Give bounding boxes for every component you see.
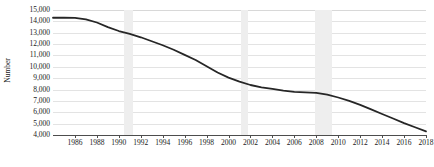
x-tick xyxy=(229,135,230,138)
y-tick-label: 13,000 xyxy=(29,29,50,37)
x-tick xyxy=(119,135,120,138)
x-tick xyxy=(250,135,251,138)
y-tick-label: 4,000 xyxy=(33,131,50,139)
x-tick-label: 1988 xyxy=(89,139,104,147)
y-tick-label: 9,000 xyxy=(33,74,50,82)
y-tick-label: 10,000 xyxy=(29,63,50,71)
x-tick xyxy=(294,135,295,138)
x-axis-tick-labels: 1986198819901992199419961998200020022004… xyxy=(53,139,426,161)
x-tick xyxy=(404,135,405,138)
x-tick-label: 2010 xyxy=(331,139,346,147)
x-tick-label: 1996 xyxy=(177,139,192,147)
x-tick xyxy=(141,135,142,138)
x-tick-label: 1990 xyxy=(111,139,126,147)
x-tick xyxy=(426,135,427,138)
x-tick-label: 2014 xyxy=(375,139,390,147)
x-tick-label: 1992 xyxy=(133,139,148,147)
x-tick-label: 2006 xyxy=(287,139,302,147)
x-axis-line xyxy=(53,135,426,136)
y-tick-label: 5,000 xyxy=(33,120,50,128)
x-tick-label: 2004 xyxy=(265,139,280,147)
y-tick-label: 12,000 xyxy=(29,40,50,48)
x-tick xyxy=(207,135,208,138)
x-tick xyxy=(382,135,383,138)
y-tick-label: 14,000 xyxy=(29,18,50,26)
x-tick xyxy=(338,135,339,138)
y-tick-label: 15,000 xyxy=(29,6,50,14)
x-tick-label: 1994 xyxy=(155,139,170,147)
series-line-number xyxy=(53,18,426,132)
x-tick xyxy=(360,135,361,138)
x-tick-label: 2008 xyxy=(309,139,324,147)
y-axis-tick-labels: 15,00014,00013,00012,00011,00010,0009,00… xyxy=(14,5,52,137)
x-tick xyxy=(75,135,76,138)
x-tick xyxy=(272,135,273,138)
x-tick-label: 1998 xyxy=(199,139,214,147)
x-tick-label: 2002 xyxy=(243,139,258,147)
x-tick-label: 2018 xyxy=(419,139,434,147)
y-tick-label: 8,000 xyxy=(33,86,50,94)
x-tick xyxy=(163,135,164,138)
y-axis-title-label: Number xyxy=(3,58,12,83)
series-line-svg xyxy=(53,10,426,135)
y-tick-label: 6,000 xyxy=(33,109,50,117)
y-axis-title: Number xyxy=(0,0,14,140)
y-tick-label: 7,000 xyxy=(33,97,50,105)
x-tick-label: 1986 xyxy=(67,139,82,147)
x-tick-label: 2016 xyxy=(397,139,412,147)
plot-area xyxy=(53,10,426,135)
x-tick xyxy=(185,135,186,138)
x-tick-label: 2012 xyxy=(353,139,368,147)
x-tick-label: 2000 xyxy=(221,139,236,147)
x-tick xyxy=(316,135,317,138)
x-tick xyxy=(97,135,98,138)
y-tick-label: 11,000 xyxy=(30,52,50,60)
